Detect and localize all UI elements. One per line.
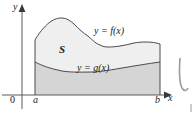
y-axis-arrowhead xyxy=(19,4,26,12)
upper-curve-label: y = f(x) xyxy=(94,26,124,36)
cropped-neighbor-mark xyxy=(179,58,188,90)
figure-region-between-curves: y x 0 a b S y = f(x) y = g(x) xyxy=(0,0,193,115)
lower-bound-label-a: a xyxy=(33,95,38,105)
y-axis-label: y xyxy=(13,2,17,12)
origin-label: 0 xyxy=(10,95,15,105)
upper-bound-label-b: b xyxy=(155,95,160,105)
x-axis-label: x xyxy=(168,93,172,103)
region-label-S: S xyxy=(59,44,65,55)
lower-curve-label: y = g(x) xyxy=(77,63,109,73)
figure-canvas xyxy=(0,0,193,115)
